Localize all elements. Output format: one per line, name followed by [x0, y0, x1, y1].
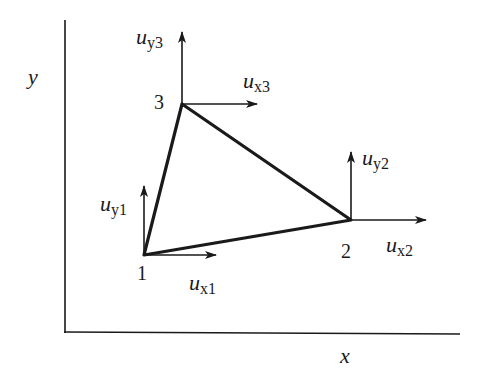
label-uy2: uy2: [362, 147, 389, 169]
node-3-label: 3: [154, 92, 164, 112]
y-axis-label: y: [28, 66, 38, 88]
triangle-element: [144, 104, 351, 255]
label-uy1: uy1: [100, 193, 127, 215]
x-axis: [64, 332, 460, 334]
label-ux3: ux3: [243, 70, 270, 92]
label-ux1: ux1: [189, 272, 216, 294]
label-uy3: uy3: [136, 26, 163, 48]
diagram-canvas: [0, 0, 477, 387]
node-1-label: 1: [137, 263, 147, 283]
node-2-label: 2: [341, 241, 351, 261]
label-ux2: ux2: [386, 234, 413, 256]
x-axis-label: x: [340, 345, 350, 367]
